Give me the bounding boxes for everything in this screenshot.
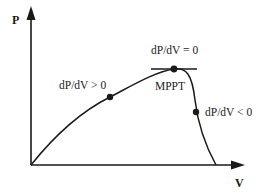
left-slope-point xyxy=(107,94,113,100)
x-axis-arrow-icon xyxy=(231,161,245,170)
right-slope-label: dP/dV < 0 xyxy=(205,106,252,118)
pv-curve-diagram: P V dP/dV > 0 dP/dV = 0 MPPT dP/dV < 0 xyxy=(0,0,267,195)
left-slope-label: dP/dV > 0 xyxy=(59,79,106,91)
mppt-point xyxy=(171,66,178,73)
x-axis-label: V xyxy=(235,176,244,190)
y-axis-label: P xyxy=(12,13,19,27)
right-slope-point xyxy=(193,109,199,115)
y-axis-arrow-icon xyxy=(27,6,36,20)
mppt-label: MPPT xyxy=(155,80,185,92)
peak-slope-label: dP/dV = 0 xyxy=(151,44,198,56)
